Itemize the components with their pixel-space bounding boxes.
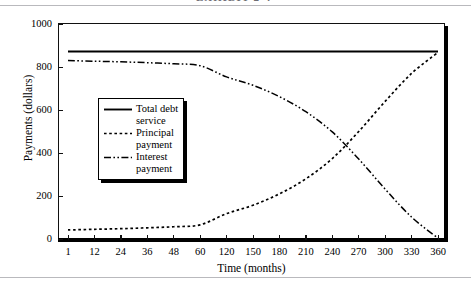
x-tick-mark <box>279 235 280 240</box>
y-tick-mark <box>58 24 63 25</box>
y-tick-mark <box>58 239 63 240</box>
legend-item: Total debt service <box>103 103 178 126</box>
y-tick-mark <box>58 196 63 197</box>
x-tick-mark <box>385 235 386 240</box>
x-tick-mark <box>358 235 359 240</box>
x-tick-mark <box>226 235 227 240</box>
x-tick-mark <box>200 235 201 240</box>
y-tick-label: 0 <box>6 234 52 244</box>
legend-item: Interest payment <box>103 151 178 174</box>
legend-item-label: Principal payment <box>133 127 174 150</box>
y-tick-mark <box>58 153 63 154</box>
chart-legend: Total debt servicePrincipal paymentInter… <box>98 98 184 180</box>
figure-title-cropped: EXHIBIT 2-4 <box>196 0 326 4</box>
legend-item-label: Interest payment <box>133 151 172 174</box>
plot-right-edge <box>444 26 448 242</box>
x-tick-mark <box>253 235 254 240</box>
x-tick-mark <box>305 235 306 240</box>
legend-item: Principal payment <box>103 127 178 150</box>
page-rule-bottom <box>0 277 471 278</box>
x-tick-label: 360 <box>421 247 455 257</box>
x-tick-mark <box>68 235 69 240</box>
x-tick-mark <box>411 235 412 240</box>
y-axis-label: Payments (dollars) <box>22 43 34 193</box>
x-tick-mark <box>147 235 148 240</box>
y-tick-label: 1000 <box>6 19 52 29</box>
legend-item-label: Total debt service <box>133 103 178 126</box>
x-tick-mark <box>332 235 333 240</box>
page-rule-top <box>0 5 471 6</box>
x-axis-label: Time (months) <box>58 262 445 274</box>
figure-title-text: EXHIBIT 2-4 <box>196 0 326 3</box>
legend-line-swatch <box>103 103 133 116</box>
x-tick-mark <box>120 235 121 240</box>
legend-line-swatch <box>103 127 133 140</box>
legend-line-swatch <box>103 151 133 164</box>
chart-figure: EXHIBIT 2-4 02004006008001000 1122436486… <box>0 0 471 287</box>
x-tick-mark <box>173 235 174 240</box>
y-tick-mark <box>58 67 63 68</box>
x-tick-mark <box>94 235 95 240</box>
x-tick-mark <box>438 235 439 240</box>
y-tick-mark <box>58 110 63 111</box>
